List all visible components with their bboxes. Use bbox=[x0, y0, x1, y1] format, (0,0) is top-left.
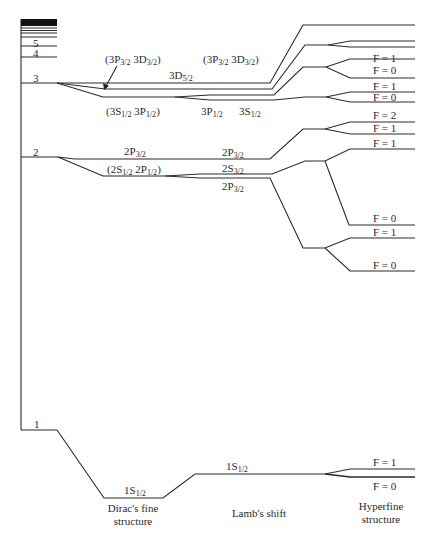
n2-levels bbox=[21, 122, 415, 271]
label-2s12-2p12: (2S1/2 2P1/2) bbox=[107, 163, 161, 175]
energy-level-diagram bbox=[0, 0, 434, 540]
caption-dirac-fine-structure: Dirac's fine structure bbox=[100, 502, 166, 528]
caption-lamb-shift: Lamb's shift bbox=[224, 507, 294, 520]
label-f: F = 1 bbox=[373, 456, 396, 468]
label-2p-low: 2P3/2 bbox=[222, 180, 244, 192]
label-f: F = 0 bbox=[373, 212, 396, 224]
label-f: F = 1 bbox=[373, 122, 396, 134]
label-f: F = 1 bbox=[373, 52, 396, 64]
label-f: F = 0 bbox=[373, 259, 396, 271]
continuum-block bbox=[21, 19, 57, 26]
label-2p32-left: 2P3/2 bbox=[124, 145, 146, 157]
n1-levels bbox=[21, 430, 415, 498]
label-3p12: 3P1/2 bbox=[201, 105, 223, 117]
label-n3: 3 bbox=[33, 72, 39, 84]
label-f: F = 0 bbox=[373, 480, 396, 492]
label-f: F = 2 bbox=[373, 109, 396, 121]
label-2p32-right: 2P3/2 bbox=[222, 146, 244, 158]
label-f: F = 0 bbox=[373, 64, 396, 76]
label-2s-mid: 2S3/2 bbox=[222, 162, 244, 174]
label-3p32-3d32-right: (3P3/2 3D3/2) bbox=[203, 53, 259, 65]
label-1s12-fine: 1S1/2 bbox=[124, 484, 146, 496]
label-n2: 2 bbox=[33, 146, 39, 158]
label-f: F = 0 bbox=[373, 91, 396, 103]
label-3p32-3d32-left: (3P3/2 3D3/2) bbox=[105, 53, 161, 65]
label-f: F = 1 bbox=[373, 226, 396, 238]
label-1s12-lamb: 1S1/2 bbox=[226, 460, 248, 472]
caption-hyperfine-structure: Hyperfine structure bbox=[346, 500, 416, 526]
label-3s12: 3S1/2 bbox=[239, 105, 261, 117]
label-3d52: 3D5/2 bbox=[169, 69, 193, 81]
label-n1: 1 bbox=[34, 418, 40, 430]
label-n4: 4 bbox=[33, 47, 39, 59]
label-3s12-3p12: (3S1/2 3P1/2) bbox=[106, 105, 160, 117]
label-f: F = 1 bbox=[373, 137, 396, 149]
high-n-levels bbox=[21, 28, 57, 57]
